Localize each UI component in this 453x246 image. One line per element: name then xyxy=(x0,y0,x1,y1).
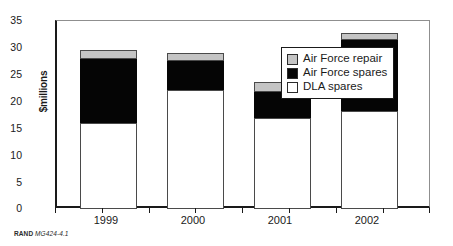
credit-brand: RAND xyxy=(14,230,33,237)
bar-segment-1999-dla-spares xyxy=(80,123,137,209)
legend-label-air-force-repair: Air Force repair xyxy=(303,53,382,65)
bar-segment-2002-dla-spares xyxy=(341,111,398,209)
x-tick-mark-7 xyxy=(383,208,384,213)
x-tick-mark-0 xyxy=(55,208,56,213)
legend-swatch-gray-icon xyxy=(287,54,298,65)
bar-segment-1999-air-force-spares xyxy=(80,59,137,123)
y-tick-label-5: 5 xyxy=(0,177,22,188)
x-tick-mark-3 xyxy=(195,208,196,213)
y-axis-label: $millions xyxy=(38,47,49,137)
x-tick-mark-5 xyxy=(289,208,290,213)
x-tick-mark-8 xyxy=(429,208,430,213)
x-tick-mark-4 xyxy=(242,208,243,213)
y-tick-label-30: 30 xyxy=(0,42,22,53)
bar-segment-2000-air-force-spares xyxy=(167,61,224,90)
x-axis-label-2002: 2002 xyxy=(332,214,402,227)
x-tick-mark-1 xyxy=(102,208,103,213)
x-tick-mark-6 xyxy=(336,208,337,213)
x-axis-label-2000: 2000 xyxy=(158,214,228,227)
y-tick-label-15: 15 xyxy=(0,123,22,134)
bar-segment-2000-air-force-repair xyxy=(167,53,224,61)
y-tick-label-25: 25 xyxy=(0,69,22,80)
y-tick-label-20: 20 xyxy=(0,96,22,107)
legend-swatch-white-icon xyxy=(287,82,298,93)
bar-segment-2002-air-force-repair xyxy=(341,33,398,40)
x-axis-label-2001: 2001 xyxy=(245,214,315,227)
legend-label-dla-spares: DLA spares xyxy=(303,81,362,93)
legend-item-air-force-repair[interactable]: Air Force repair xyxy=(287,52,387,66)
x-tick-mark-2 xyxy=(149,208,150,213)
credit-id: MG424-4.1 xyxy=(35,230,68,237)
figure-stacked-bar-chart: $millions 35 30 25 20 15 10 5 0 xyxy=(0,0,453,246)
legend-swatch-black-icon xyxy=(287,68,298,79)
legend-item-air-force-spares[interactable]: Air Force spares xyxy=(287,66,387,80)
legend: Air Force repair Air Force spares DLA sp… xyxy=(281,47,394,99)
legend-item-dla-spares[interactable]: DLA spares xyxy=(287,80,387,94)
x-axis-label-1999: 1999 xyxy=(71,214,141,227)
bar-segment-2001-dla-spares xyxy=(254,118,311,209)
bar-segment-1999-air-force-repair xyxy=(80,50,137,59)
legend-label-air-force-spares: Air Force spares xyxy=(303,67,387,79)
y-tick-label-35: 35 xyxy=(0,15,22,26)
plot-area: Air Force repair Air Force spares DLA sp… xyxy=(55,20,430,208)
y-tick-label-0: 0 xyxy=(0,203,22,214)
y-tick-label-10: 10 xyxy=(0,150,22,161)
bar-segment-2000-dla-spares xyxy=(167,90,224,209)
figure-credit: RAND MG424-4.1 xyxy=(14,230,69,237)
